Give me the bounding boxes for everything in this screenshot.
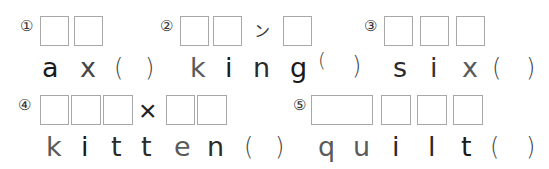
- answer-box[interactable]: [213, 16, 242, 46]
- open-paren: (: [244, 135, 253, 159]
- word-letter: t: [141, 133, 152, 160]
- question-number: ④: [18, 97, 31, 112]
- word-letter: k: [190, 54, 206, 81]
- word-letter: i: [81, 133, 89, 160]
- question-number: ③: [364, 18, 377, 33]
- answer-box[interactable]: [74, 16, 103, 46]
- close-paren: ): [275, 135, 284, 159]
- close-paren: ): [526, 135, 535, 159]
- answer-box[interactable]: [453, 95, 483, 125]
- word-letter: u: [353, 133, 370, 160]
- question-number: ⑤: [293, 97, 306, 112]
- word-letter: g: [290, 54, 307, 81]
- word-letter: e: [174, 133, 191, 160]
- answer-box[interactable]: [40, 95, 69, 125]
- close-paren: ): [526, 56, 535, 80]
- word-letter: x: [80, 54, 96, 81]
- answer-box[interactable]: [71, 95, 101, 125]
- word-letter: l: [428, 133, 436, 160]
- answer-box[interactable]: [166, 95, 195, 125]
- word-letter: t: [111, 133, 122, 160]
- word-letter: i: [430, 54, 438, 81]
- word-letter: q: [318, 133, 335, 160]
- open-paren: (: [490, 135, 499, 159]
- close-paren: ): [145, 56, 154, 80]
- word-letter: n: [207, 133, 224, 160]
- word-letter: x: [462, 54, 478, 81]
- word-letter: k: [46, 133, 62, 160]
- question-number: ②: [160, 18, 173, 33]
- question-number: ①: [20, 18, 33, 33]
- word-letter: i: [392, 133, 400, 160]
- answer-box[interactable]: [283, 16, 312, 46]
- answer-box[interactable]: [311, 95, 373, 125]
- open-paren: (: [318, 50, 326, 70]
- word-letter: t: [461, 133, 472, 160]
- word-letter: n: [253, 54, 270, 81]
- katakana-n-mark: ン: [254, 24, 270, 40]
- answer-box[interactable]: [103, 95, 133, 125]
- answer-box[interactable]: [417, 95, 447, 125]
- word-letter: a: [42, 54, 59, 81]
- open-paren: (: [114, 56, 123, 80]
- answer-box[interactable]: [384, 16, 413, 46]
- word-letter: s: [393, 54, 407, 81]
- answer-box[interactable]: [420, 16, 449, 46]
- answer-box[interactable]: [197, 95, 227, 125]
- answer-box[interactable]: [456, 16, 485, 46]
- cross-mark: ×: [139, 96, 157, 126]
- open-paren: (: [492, 56, 501, 80]
- word-letter: i: [225, 54, 233, 81]
- answer-box[interactable]: [381, 95, 411, 125]
- answer-box[interactable]: [40, 16, 69, 46]
- answer-box[interactable]: [180, 16, 209, 46]
- close-paren: ): [352, 54, 361, 78]
